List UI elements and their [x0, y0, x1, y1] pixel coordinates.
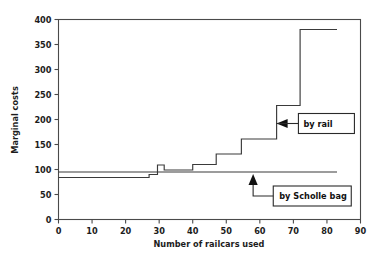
y-tick-label: 300 [34, 65, 51, 75]
y-tick-label: 50 [40, 190, 52, 200]
x-tick-label: 20 [120, 226, 132, 236]
y-axis-title: Marginal costs [10, 86, 20, 154]
y-tick-label: 100 [34, 165, 51, 175]
marginal-costs-chart-figure: 050100150200250300350400 010203040506070… [0, 0, 381, 256]
x-tick-label: 50 [221, 226, 233, 236]
y-tick-label: 350 [34, 40, 51, 50]
y-tick-label: 400 [34, 15, 51, 25]
y-tick-label: 150 [34, 140, 51, 150]
x-tick-label: 40 [187, 226, 199, 236]
y-tick-label: 250 [34, 90, 51, 100]
x-tick-label: 10 [86, 226, 98, 236]
chart-canvas: 050100150200250300350400 010203040506070… [0, 0, 381, 256]
x-tick-label: 80 [321, 226, 333, 236]
x-tick-label: 70 [288, 226, 300, 236]
y-tick-label: 0 [46, 215, 52, 225]
x-tick-label: 30 [153, 226, 165, 236]
y-tick-label: 200 [34, 115, 51, 125]
annotation-by-scholle-bag-label: by Scholle bag [279, 191, 347, 201]
x-tick-label: 90 [355, 226, 367, 236]
x-axis-title: Number of railcars used [154, 239, 265, 249]
x-tick-label: 60 [254, 226, 266, 236]
x-tick-label: 0 [56, 226, 62, 236]
annotation-by-rail-label: by rail [303, 119, 332, 129]
